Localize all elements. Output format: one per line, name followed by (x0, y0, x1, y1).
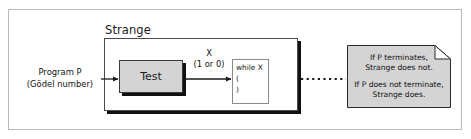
note-callout: If P terminates, Strange does not. If P … (347, 45, 451, 108)
program-input-line-2: (Gödel number) (22, 79, 98, 91)
program-input-line-1: Program P (22, 67, 98, 79)
program-input-label: Program P (Gödel number) (22, 67, 98, 90)
signal-values: (1 or 0) (186, 59, 232, 70)
while-block-line-1: while X (236, 62, 266, 73)
note-paragraph-1: If P terminates, Strange does not. (365, 53, 433, 73)
while-block-line-2: ( (236, 73, 266, 84)
signal-label: X (1 or 0) (186, 48, 232, 70)
signal-name: X (186, 48, 232, 59)
while-block: while X ( ) (232, 59, 269, 104)
test-block: Test (119, 60, 183, 93)
diagram-canvas: Strange Test while X ( ) Program P (Göde… (0, 0, 471, 139)
note-paragraph-2: If P does not terminate, Strange does. (354, 80, 443, 100)
strange-container-label: Strange (105, 23, 151, 37)
note-text: If P terminates, Strange does not. If P … (347, 45, 451, 108)
while-block-line-3: ) (236, 84, 266, 95)
test-block-label: Test (140, 70, 162, 83)
